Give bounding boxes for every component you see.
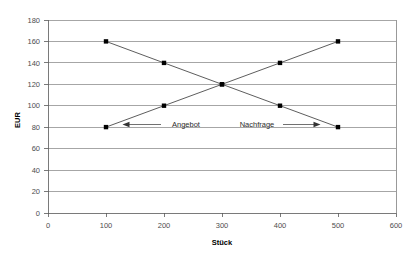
y-tick-label: 0: [36, 209, 40, 218]
y-axis-title: EUR: [13, 112, 22, 128]
series-angebot-marker: [278, 61, 282, 65]
chart-background: [0, 0, 420, 266]
y-tick-label: 40: [32, 166, 40, 175]
annotation-angebot-label: Angebot: [172, 120, 201, 129]
series-angebot-marker: [162, 104, 166, 108]
y-tick-label: 160: [27, 37, 40, 46]
series-angebot-marker: [104, 125, 108, 129]
annotation-nachfrage-label: Nachfrage: [240, 120, 275, 129]
y-tick-label: 180: [27, 16, 40, 25]
y-tick-label: 120: [27, 80, 40, 89]
x-tick-label: 0: [46, 221, 50, 230]
series-nachfrage-marker: [104, 39, 108, 43]
series-nachfrage-marker: [336, 125, 340, 129]
x-tick-label: 200: [158, 221, 171, 230]
x-tick-label: 100: [100, 221, 113, 230]
chart-canvas: 180 160 140 120 100 80 60 40 20 0 0 100 …: [0, 0, 420, 266]
y-tick-label: 80: [32, 123, 40, 132]
x-tick-label: 300: [216, 221, 229, 230]
y-tick-label: 100: [27, 101, 40, 110]
supply-demand-chart: 180 160 140 120 100 80 60 40 20 0 0 100 …: [0, 0, 420, 266]
y-tick-label: 20: [32, 187, 40, 196]
y-tick-label: 140: [27, 59, 40, 68]
series-nachfrage-marker: [220, 82, 224, 86]
x-tick-label: 600: [390, 221, 403, 230]
series-nachfrage-marker: [278, 104, 282, 108]
x-tick-label: 400: [274, 221, 287, 230]
x-tick-label: 500: [332, 221, 345, 230]
series-nachfrage-marker: [162, 61, 166, 65]
x-axis-title: Stück: [212, 238, 233, 247]
series-angebot-marker: [336, 39, 340, 43]
y-tick-label: 60: [32, 144, 40, 153]
